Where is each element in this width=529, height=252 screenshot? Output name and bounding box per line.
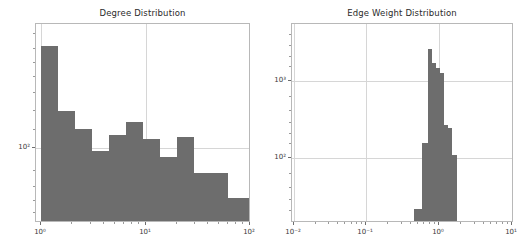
xtick-1em2: [293, 222, 294, 225]
xticklabel-weight-2: 10⁰: [432, 228, 444, 236]
xtick-minor-l7: [138, 222, 139, 224]
xtick-minor-r19: [496, 222, 497, 224]
yticklabel-degree-0: 10²: [12, 143, 30, 151]
bar-degree-12: [228, 198, 244, 221]
xtick-1e0: [40, 222, 41, 225]
xtick-minor-l6: [131, 222, 132, 224]
xtick-minor-r16: [474, 222, 475, 224]
xtick-minor-r5: [351, 222, 352, 224]
bar-degree-7: [143, 139, 160, 221]
xtick-minor-l1: [71, 222, 72, 224]
ytick-minor-l8: [33, 170, 35, 171]
xtick-minor-l2: [90, 222, 91, 224]
bar-degree-11: [211, 173, 228, 221]
ytick-minor-l2: [33, 48, 35, 49]
xtick-1e0: [438, 222, 439, 225]
xtick-1em1: [365, 222, 366, 225]
xtick-minor-l8: [176, 222, 177, 224]
xtick-minor-r11: [417, 222, 418, 224]
gridline-x-1em1: [366, 24, 367, 221]
ytick-minor-r1: [289, 34, 291, 35]
chart-title-degree-distribution: Degree Distribution: [35, 8, 250, 18]
xticklabel-degree-2: 10²: [243, 228, 255, 236]
bar-weight-1: [414, 209, 422, 221]
chart-panel-edge-weight-distribution: Edge Weight Distribution: [265, 0, 529, 252]
ytick-minor-l11: [33, 212, 35, 213]
ytick-minor-l1: [33, 33, 35, 34]
ytick-minor-r5: [289, 96, 291, 97]
xtick-minor-r13: [429, 222, 430, 224]
ytick-minor-r9: [289, 143, 291, 144]
xtick-minor-r17: [483, 222, 484, 224]
xticklabel-weight-0: 10⁻²: [285, 228, 300, 236]
xtick-minor-r2: [328, 222, 329, 224]
xtick-1e2: [249, 222, 250, 225]
xtick-minor-l14: [242, 222, 243, 224]
ytick-minor-r6: [289, 110, 291, 111]
ytick-minor-l9: [33, 186, 35, 187]
bar-degree-13: [244, 198, 250, 221]
ytick-minor-r2: [289, 45, 291, 46]
ytick-minor-l4: [33, 76, 35, 77]
ytick-minor-r4: [289, 66, 291, 67]
xtick-minor-r10: [410, 222, 411, 224]
ytick-minor-r12: [289, 199, 291, 200]
xticklabel-degree-1: 10¹: [139, 228, 151, 236]
xtick-minor-r21: [507, 222, 508, 224]
xtick-minor-l3: [103, 222, 104, 224]
ytick-1e2: [32, 147, 35, 148]
ytick-minor-l10: [33, 200, 35, 201]
bar-degree-6: [126, 122, 143, 221]
xtick-minor-r20: [502, 222, 503, 224]
gridline-x-1em2: [294, 24, 295, 221]
xtick-minor-l9: [194, 222, 195, 224]
xtick-minor-r3: [337, 222, 338, 224]
ytick-minor-l3: [33, 62, 35, 63]
bar-degree-4: [92, 151, 109, 221]
xticklabel-weight-1: 10⁻¹: [357, 228, 372, 236]
ytick-1e2: [288, 157, 291, 158]
xticklabel-weight-3: 10¹: [505, 228, 517, 236]
xtick-minor-r18: [490, 222, 491, 224]
ytick-minor-r8: [289, 133, 291, 134]
figure-canvas: Degree Distribution: [0, 0, 529, 252]
xtick-minor-r14: [434, 222, 435, 224]
xtick-minor-l4: [114, 222, 115, 224]
chart-title-edge-weight-distribution: Edge Weight Distribution: [291, 8, 513, 18]
ytick-minor-r7: [289, 122, 291, 123]
xtick-minor-r1: [315, 222, 316, 224]
ytick-minor-r10: [289, 173, 291, 174]
bar-degree-8: [160, 157, 177, 221]
xtick-minor-l13: [235, 222, 236, 224]
chart-panel-degree-distribution: Degree Distribution: [0, 0, 265, 252]
xtick-minor-r9: [401, 222, 402, 224]
gridline-x-1e1: [512, 24, 513, 221]
bar-degree-2: [58, 111, 75, 221]
ytick-1e3: [288, 80, 291, 81]
gridline-y-1e3: [292, 81, 512, 82]
xtick-minor-l12: [227, 222, 228, 224]
gridline-y-1e2: [292, 158, 512, 159]
xtick-minor-r8: [387, 222, 388, 224]
bar-weight-9: [452, 155, 457, 221]
xticklabel-degree-0: 10⁰: [34, 228, 46, 236]
bar-degree-5: [109, 135, 126, 221]
yticklabel-weight-0: 10³: [268, 76, 286, 84]
xtick-minor-r7: [361, 222, 362, 224]
bar-degree-9: [177, 137, 194, 221]
plot-area-edge-weight-distribution: [291, 23, 513, 222]
ytick-minor-l6: [33, 110, 35, 111]
bar-degree-10: [194, 173, 211, 221]
xtick-minor-l11: [218, 222, 219, 224]
xtick-minor-l10: [207, 222, 208, 224]
plot-area-degree-distribution: [35, 23, 250, 222]
xtick-minor-r6: [356, 222, 357, 224]
xtick-minor-r15: [460, 222, 461, 224]
xtick-minor-l5: [123, 222, 124, 224]
xtick-1e1: [511, 222, 512, 225]
bar-degree-3: [75, 129, 92, 221]
ytick-minor-l7: [33, 129, 35, 130]
ytick-minor-r11: [289, 187, 291, 188]
bar-degree-1: [41, 46, 58, 221]
xtick-minor-r12: [423, 222, 424, 224]
